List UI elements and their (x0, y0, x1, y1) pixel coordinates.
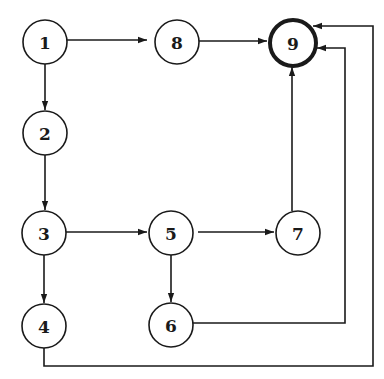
node-1: 1 (23, 20, 67, 64)
node-label: 6 (165, 316, 177, 336)
node-8: 8 (155, 20, 199, 64)
node-2: 2 (23, 111, 67, 155)
node-7: 7 (276, 211, 320, 255)
edge-6-to-9 (193, 48, 345, 323)
node-label: 8 (171, 33, 183, 53)
node-label: 2 (39, 124, 51, 144)
node-9: 9 (270, 20, 316, 66)
node-label: 9 (287, 34, 299, 54)
edge-4-to-9 (44, 26, 373, 366)
node-6: 6 (149, 303, 193, 347)
node-label: 1 (39, 33, 51, 53)
node-4: 4 (22, 304, 66, 348)
node-label: 4 (38, 317, 50, 337)
node-3: 3 (22, 211, 66, 255)
edges-layer (44, 26, 373, 366)
node-label: 3 (38, 224, 50, 244)
node-label: 7 (292, 224, 304, 244)
node-5: 5 (149, 211, 193, 255)
flow-graph-diagram: 189235746 (0, 0, 384, 379)
node-label: 5 (165, 224, 177, 244)
